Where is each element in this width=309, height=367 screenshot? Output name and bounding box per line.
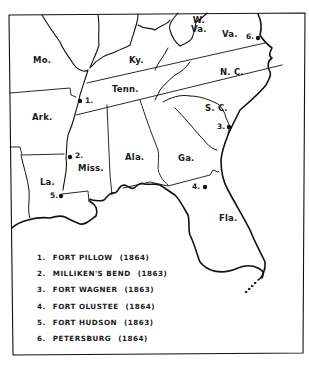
atlantic-coast xyxy=(221,14,272,280)
state-label-wva: W. Va. xyxy=(191,16,207,34)
site-label-5: 5. xyxy=(50,191,58,200)
site-marker-3 xyxy=(227,125,231,129)
legend-name: PETERSBURG xyxy=(53,334,111,343)
site-marker-6 xyxy=(256,36,260,40)
legend-num: 5. xyxy=(37,318,46,327)
site-label-4: 4. xyxy=(192,182,200,191)
legend-year: (1864) xyxy=(126,302,156,311)
legend-year: (1863) xyxy=(124,285,154,294)
site-marker-5 xyxy=(59,194,63,198)
map-legend: 1. FORT PILLOW (1864) 2. MILLIKEN'S BEND… xyxy=(37,250,167,347)
legend-name: FORT OLUSTEE xyxy=(53,302,119,311)
site-label-6: 6. xyxy=(246,32,254,41)
state-label-tenn: Tenn. xyxy=(112,84,139,94)
state-label-miss: Miss. xyxy=(78,163,104,173)
site-label-2: 2. xyxy=(75,151,83,160)
legend-name: FORT PILLOW xyxy=(53,253,113,262)
legend-year: (1864) xyxy=(118,334,148,343)
state-label-ky: Ky. xyxy=(129,55,144,65)
legend-name: FORT WAGNER xyxy=(53,285,118,294)
legend-num: 3. xyxy=(37,285,46,294)
legend-year: (1864) xyxy=(120,253,150,262)
site-marker-1 xyxy=(78,99,82,103)
legend-num: 6. xyxy=(37,334,46,343)
site-label-1: 1. xyxy=(85,96,93,105)
state-label-sc: S. C. xyxy=(205,103,228,113)
site-label-3: 3. xyxy=(217,122,225,131)
legend-item-fort-pillow: 1. FORT PILLOW (1864) xyxy=(37,250,167,266)
legend-name: FORT HUDSON xyxy=(53,318,117,327)
state-label-ga: Ga. xyxy=(178,153,195,163)
mo-ark-border xyxy=(10,88,76,97)
site-marker-2 xyxy=(68,155,72,159)
state-label-va: Va. xyxy=(222,29,238,39)
site-marker-4 xyxy=(203,185,207,189)
state-label-nc: N. C. xyxy=(220,67,244,77)
legend-num: 2. xyxy=(37,269,46,278)
legend-item-fort-olustee: 4. FORT OLUSTEE (1864) xyxy=(37,299,167,315)
state-label-la: La. xyxy=(40,177,55,187)
state-label-ala: Ala. xyxy=(125,152,144,162)
civil-war-battles-map: Mo. Ky. W. Va. Va. Tenn. N. C. Ark. S. C… xyxy=(0,0,309,367)
legend-item-millikens-bend: 2. MILLIKEN'S BEND (1863) xyxy=(37,266,167,282)
state-label-wva-line2: Va. xyxy=(191,25,207,34)
legend-year: (1863) xyxy=(138,269,168,278)
legend-item-fort-wagner: 3. FORT WAGNER (1863) xyxy=(37,282,167,298)
legend-num: 4. xyxy=(37,302,46,311)
ky-tenn-border xyxy=(87,43,265,83)
legend-num: 1. xyxy=(37,253,46,262)
state-label-fla: Fla. xyxy=(219,213,238,223)
legend-name: MILLIKEN'S BEND xyxy=(53,269,131,278)
legend-item-petersburg: 6. PETERSBURG (1864) xyxy=(37,331,167,347)
state-label-mo: Mo. xyxy=(33,55,51,65)
legend-year: (1863) xyxy=(124,318,154,327)
legend-item-fort-hudson: 5. FORT HUDSON (1863) xyxy=(37,315,167,331)
state-label-ark: Ark. xyxy=(32,112,52,122)
